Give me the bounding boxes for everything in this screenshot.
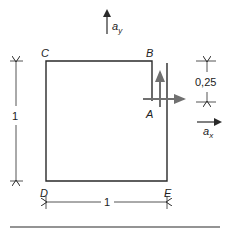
ax-unit-vector: ax	[197, 122, 220, 140]
ay-label: ay	[112, 20, 123, 35]
left-dimension: 1	[10, 61, 23, 181]
ay-unit-vector: ay	[107, 11, 123, 35]
label-D: D	[40, 187, 48, 199]
right-dimension-value: 0,25	[195, 76, 216, 88]
conductor-loop	[46, 61, 167, 181]
label-E: E	[164, 187, 172, 199]
bottom-dimension-value: 1	[104, 196, 110, 208]
local-axes-at-A	[143, 72, 184, 107]
left-dimension-value: 1	[12, 110, 18, 122]
square-loop-diagram: ay C B A D E 1 0,25 ax 1	[0, 0, 227, 234]
bottom-dimension: 1	[46, 196, 167, 209]
label-B: B	[146, 47, 153, 59]
right-dimension: 0,25	[195, 61, 216, 102]
ax-label: ax	[203, 125, 214, 140]
label-A: A	[145, 108, 153, 120]
label-C: C	[41, 47, 49, 59]
loop-path	[46, 61, 167, 181]
